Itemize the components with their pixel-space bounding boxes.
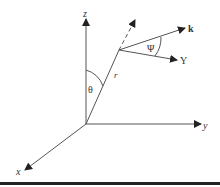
psi-arc (155, 37, 161, 56)
x-axis-label: x (15, 166, 21, 177)
x-axis (25, 124, 86, 170)
Y-label: Y (180, 55, 187, 66)
theta-label: θ (88, 84, 93, 95)
bottom-rule (0, 182, 220, 185)
r-label: r (114, 70, 118, 80)
psi-label: Ψ (147, 43, 155, 54)
k-label: k (188, 23, 194, 34)
z-axis-label: z (82, 8, 87, 19)
y-axis-label: y (202, 120, 208, 131)
coordinate-diagram: z y x k Y r θ Ψ (0, 0, 220, 187)
